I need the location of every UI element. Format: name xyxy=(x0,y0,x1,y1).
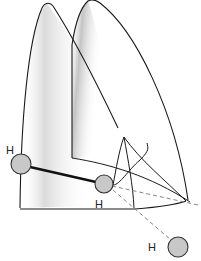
small-lobe xyxy=(113,137,148,208)
label-h-left: H xyxy=(6,144,14,156)
label-h-center: H xyxy=(95,198,103,210)
h-atom-center xyxy=(95,175,113,193)
dashed-line-right xyxy=(112,186,198,205)
h-atom-left xyxy=(11,154,31,174)
label-h-bottom: H xyxy=(148,241,156,253)
h-atom-bottom xyxy=(168,237,188,257)
orbital-diagram: H H H xyxy=(0,0,201,261)
